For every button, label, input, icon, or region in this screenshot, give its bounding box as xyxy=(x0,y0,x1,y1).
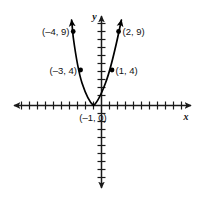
point-marker-neg4-9 xyxy=(71,29,76,34)
coordinate-plane: (–4, 9) (2, 9) (–3, 4) (1, 4) (–1, 0) x … xyxy=(0,0,205,204)
y-axis-label: y xyxy=(91,11,97,22)
x-axis-label: x xyxy=(183,111,189,122)
graph-figure: (–4, 9) (2, 9) (–3, 4) (1, 4) (–1, 0) x … xyxy=(0,0,205,204)
point-label-vertex: (–1, 0) xyxy=(79,112,106,123)
point-label-2-9: (2, 9) xyxy=(123,26,145,37)
point-marker-neg3-4 xyxy=(78,68,83,73)
point-label-1-4: (1, 4) xyxy=(116,65,138,76)
point-marker-2-9 xyxy=(116,29,121,34)
point-label-neg3-4: (–3, 4) xyxy=(50,65,77,76)
point-label-neg4-9: (–4, 9) xyxy=(42,26,69,37)
point-marker-1-4 xyxy=(110,68,115,73)
